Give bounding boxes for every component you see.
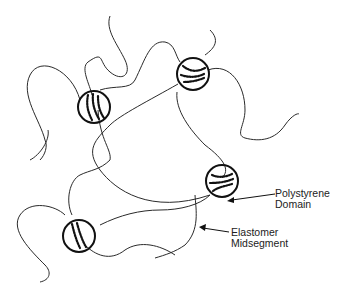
elastomer-chain [208,68,299,139]
elastomer-arrow [199,224,229,232]
elastomer-chain [85,16,127,95]
polystyrene-domain-label: Polystyrene Domain [275,188,330,210]
label-line: Domain [275,199,330,210]
elastomer-chain [205,30,215,55]
polystyrene-arrow [227,194,275,203]
elastomer-chain [69,110,110,215]
elastomer-chain [17,206,65,282]
label-line: Midsegment [231,238,288,249]
elastomer-chain [27,66,80,160]
polystyrene-domain [78,91,110,123]
elastomer-chain [30,130,48,160]
elastomer-midsegment-label: Elastomer Midsegment [231,227,288,249]
elastomer-chain [93,84,210,202]
polystyrene-domain [206,165,238,197]
elastomer-chain [100,42,180,90]
polystyrene-domain [63,220,95,252]
polystyrene-domain [177,58,209,90]
elastomer-chain [85,245,175,257]
elastomer-chain [155,195,196,258]
